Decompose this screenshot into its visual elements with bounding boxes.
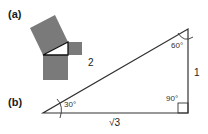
panel-a-label: (a) — [8, 8, 22, 20]
angle-30-label: 30° — [64, 100, 76, 109]
panel-b: (b) 2 1 √3 30° 60° 90° — [8, 29, 200, 128]
diagram-canvas: (a) (b) 2 1 √3 30° 60° 90° — [0, 0, 208, 134]
panel-b-label: (b) — [8, 96, 22, 108]
angle-arc-30 — [57, 99, 61, 118]
panel-a: (a) — [8, 8, 82, 80]
angle-90-label: 90° — [166, 94, 178, 103]
hypotenuse-label: 2 — [88, 57, 94, 68]
opposite-side-label: 1 — [194, 67, 200, 78]
vertical-leg-square — [68, 42, 82, 55]
angle-60-label: 60° — [171, 41, 183, 50]
base-square — [43, 55, 68, 80]
adjacent-side-label: √3 — [109, 117, 120, 128]
right-angle-marker — [178, 103, 188, 113]
